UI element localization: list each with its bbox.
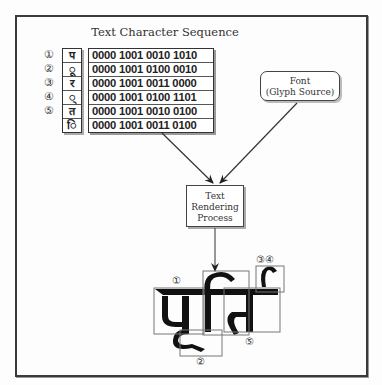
arrow-sequence-to-process <box>162 133 213 183</box>
label-5: ⑤ <box>245 336 254 347</box>
label-2: ② <box>196 356 205 367</box>
label-3-4: ③④ <box>256 254 274 265</box>
label-1: ① <box>172 275 181 286</box>
flow-arrows <box>0 0 382 385</box>
arrow-font-to-process <box>220 103 297 183</box>
